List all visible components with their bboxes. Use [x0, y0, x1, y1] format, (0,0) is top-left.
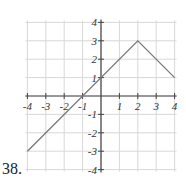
problem-number: 38. — [2, 160, 22, 178]
x-tick-label: -3 — [41, 100, 51, 112]
y-tick-label: 2 — [92, 53, 98, 65]
x-tick-label: 1 — [117, 100, 123, 112]
x-tick-label: 4 — [172, 100, 178, 112]
x-tick-label: -4 — [23, 100, 33, 112]
graph: -4-3-2-112344321-1-2-3-4 — [0, 0, 186, 181]
y-tick-label: 4 — [92, 16, 98, 28]
x-tick-label: 3 — [152, 100, 159, 112]
y-tick-label: -4 — [88, 164, 98, 176]
y-tick-label: -2 — [88, 127, 98, 139]
y-tick-label: -1 — [88, 108, 97, 120]
x-tick-label: 2 — [135, 100, 141, 112]
x-tick-label: -1 — [78, 100, 87, 112]
y-tick-label: -3 — [88, 145, 98, 157]
y-tick-label: 3 — [91, 35, 98, 47]
